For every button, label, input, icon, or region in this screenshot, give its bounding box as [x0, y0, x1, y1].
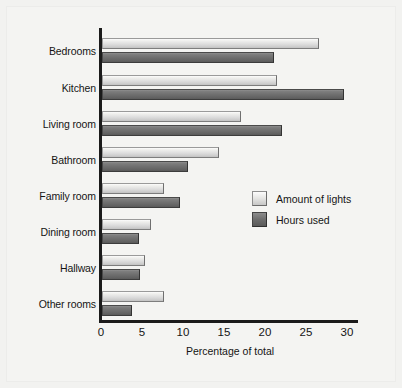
legend-item-amount-of-lights: Amount of lights [252, 188, 351, 209]
bar-amount-of-lights [102, 75, 277, 86]
category-label-dining-room: Dining room [4, 226, 96, 238]
bar-amount-of-lights [102, 255, 145, 266]
x-axis-title: Percentage of total [99, 345, 361, 357]
category-label-bathroom: Bathroom [4, 154, 96, 166]
plot-area: Bedrooms Kitchen Living room Bathroom Fa… [0, 0, 402, 388]
bar-chart-figure: Bedrooms Kitchen Living room Bathroom Fa… [0, 0, 402, 388]
bar-hours-used [102, 305, 132, 316]
category-label-other-rooms: Other rooms [4, 298, 96, 310]
bar-amount-of-lights [102, 147, 219, 158]
x-tick-30: 30 [327, 326, 367, 338]
bar-amount-of-lights [102, 219, 151, 230]
x-tick-0: 0 [81, 326, 121, 338]
legend-label-hours-used: Hours used [276, 214, 330, 226]
category-label-bedrooms: Bedrooms [4, 45, 96, 57]
category-label-kitchen: Kitchen [4, 82, 96, 94]
bar-hours-used [102, 197, 180, 208]
x-tick-10: 10 [163, 326, 203, 338]
category-label-family-room: Family room [4, 190, 96, 202]
x-tick-15: 15 [204, 326, 244, 338]
bar-hours-used [102, 125, 282, 136]
bar-amount-of-lights [102, 183, 164, 194]
legend-swatch-icon-dark [252, 212, 267, 227]
x-tick-25: 25 [286, 326, 326, 338]
legend-item-hours-used: Hours used [252, 209, 351, 230]
bar-hours-used [102, 233, 139, 244]
category-label-living-room: Living room [4, 118, 96, 130]
x-tick-20: 20 [245, 326, 285, 338]
bar-amount-of-lights [102, 38, 319, 49]
chart-legend: Amount of lights Hours used [252, 188, 351, 230]
legend-swatch-icon-light [252, 191, 267, 206]
category-label-hallway: Hallway [4, 262, 96, 274]
bar-amount-of-lights [102, 111, 241, 122]
x-axis-line [99, 320, 358, 323]
bar-hours-used [102, 269, 140, 280]
bar-hours-used [102, 89, 344, 100]
x-tick-5: 5 [122, 326, 162, 338]
legend-label-amount-of-lights: Amount of lights [276, 193, 351, 205]
bar-hours-used [102, 161, 188, 172]
bar-hours-used [102, 52, 274, 63]
bar-amount-of-lights [102, 291, 164, 302]
